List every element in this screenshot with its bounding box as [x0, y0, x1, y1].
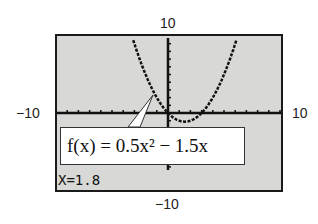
callout-pointer	[128, 95, 153, 127]
graph-plot	[0, 0, 318, 224]
function-callout: f(x) = 0.5x² − 1.5x	[60, 127, 245, 165]
function-curve	[133, 40, 236, 122]
trace-readout: X=1.8	[58, 172, 100, 188]
function-label: f(x) = 0.5x² − 1.5x	[67, 135, 208, 156]
